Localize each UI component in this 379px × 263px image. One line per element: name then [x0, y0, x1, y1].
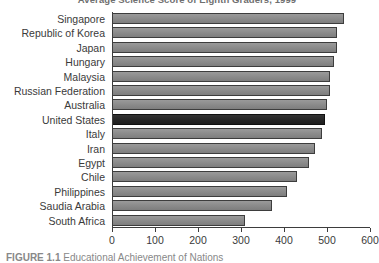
x-tick [284, 228, 285, 232]
category-label: United States [42, 113, 105, 127]
x-tick [112, 228, 113, 232]
category-label: Republic of Korea [22, 26, 105, 40]
x-tick-label: 200 [189, 234, 207, 246]
bar [112, 99, 327, 110]
x-tick-label: 500 [318, 234, 336, 246]
category-label: Chile [81, 170, 105, 184]
bar [112, 114, 325, 125]
bar [112, 56, 334, 67]
x-tick-label: 300 [232, 234, 250, 246]
bar-row [112, 170, 370, 184]
chart-title: Average Science Score of Eighth Graders,… [0, 0, 374, 6]
bar [112, 215, 245, 226]
bar [112, 42, 337, 53]
bar [112, 85, 330, 96]
bar-row [112, 41, 370, 55]
category-label: Japan [76, 41, 105, 55]
figure-caption-text: Educational Achievement of Nations [63, 252, 223, 263]
x-tick-label: 400 [275, 234, 293, 246]
bar-row [112, 26, 370, 40]
x-tick-label: 0 [109, 234, 115, 246]
bar [112, 171, 297, 182]
category-label: Russian Federation [14, 84, 105, 98]
category-label: Philippines [54, 185, 105, 199]
y-axis-category-labels: SingaporeRepublic of KoreaJapanHungaryMa… [0, 12, 110, 228]
bar [112, 143, 315, 154]
bar [112, 27, 337, 38]
bar [112, 128, 322, 139]
bar [112, 13, 344, 24]
bar-row [112, 185, 370, 199]
figure-number: FIGURE 1.1 [6, 252, 60, 263]
category-label: Hungary [65, 55, 105, 69]
category-label: Malaysia [64, 70, 105, 84]
category-label: Australia [64, 98, 105, 112]
x-tick [155, 228, 156, 232]
y-axis-line [112, 12, 113, 228]
x-tick-label: 600 [361, 234, 379, 246]
x-tick [327, 228, 328, 232]
figure-caption: FIGURE 1.1 Educational Achievement of Na… [6, 252, 368, 263]
category-label: Singapore [57, 12, 105, 26]
x-tick [198, 228, 199, 232]
bar [112, 186, 287, 197]
x-tick [370, 228, 371, 232]
bar-row [112, 98, 370, 112]
bar [112, 71, 330, 82]
x-tick-label: 100 [146, 234, 164, 246]
bar-row [112, 113, 370, 127]
category-label: Egypt [78, 156, 105, 170]
bar-row [112, 84, 370, 98]
bar [112, 200, 272, 211]
category-label: Italy [86, 127, 105, 141]
bar-row [112, 55, 370, 69]
bar-row [112, 12, 370, 26]
category-label: Saudia Arabia [40, 199, 105, 213]
bar-row [112, 214, 370, 228]
bar-row [112, 199, 370, 213]
bar-row [112, 142, 370, 156]
bar-row [112, 156, 370, 170]
bar-row [112, 127, 370, 141]
bar [112, 157, 309, 168]
category-label: South Africa [48, 214, 105, 228]
category-label: Iran [87, 142, 105, 156]
bar-row [112, 70, 370, 84]
x-tick [241, 228, 242, 232]
plot-area: 0100200300400500600 [112, 12, 370, 228]
